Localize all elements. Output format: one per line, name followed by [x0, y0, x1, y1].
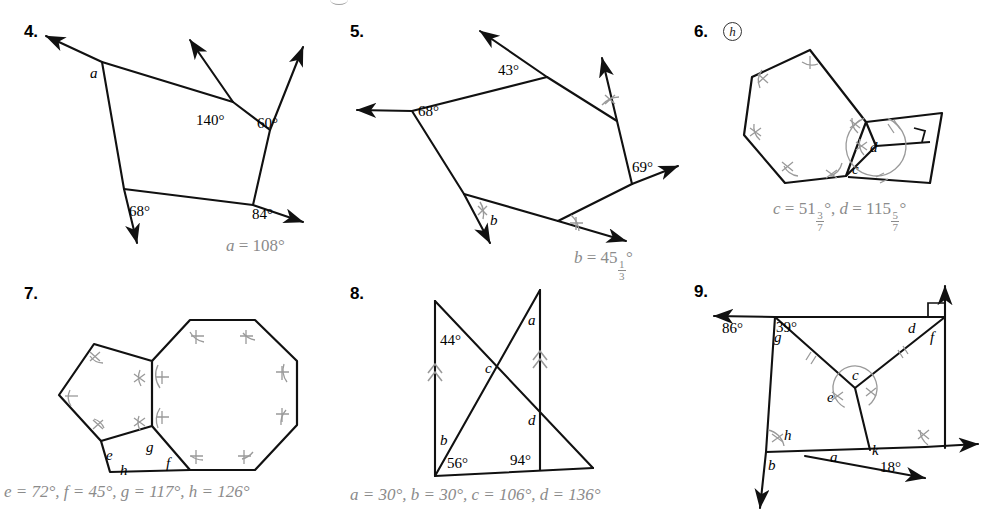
problem-4-answer-value: 108°: [253, 236, 285, 255]
problem-5-label-43: 43°: [498, 62, 519, 78]
problem-7: 7.: [0, 280, 340, 521]
problem-8-answer: a = 30°, b = 30°, c = 106°, d = 136°: [350, 485, 601, 505]
problem-8: 8. 44° a c d b 5: [340, 280, 680, 521]
problem-4-answer-eq: =: [239, 236, 249, 255]
problem-7-answer: e = 72°, f = 45°, g = 117°, h = 126°: [4, 482, 250, 502]
problem-6-answer-d-degree: °: [899, 199, 906, 218]
problem-8-label-94: 94°: [510, 452, 531, 468]
problem-5-label-b: b: [490, 212, 498, 228]
problem-6-answer-d-eq: =: [852, 199, 862, 218]
problem-9-label-k: k: [872, 442, 879, 458]
problem-9-label-h: h: [784, 427, 792, 443]
problem-7-label-g: g: [146, 439, 154, 455]
problem-9-label-86: 86°: [722, 320, 743, 336]
problem-6-answer-d-whole: 115: [866, 199, 891, 218]
problem-6-answer-c-var: c: [773, 199, 781, 218]
problem-4-label-140: 140°: [196, 112, 225, 128]
problem-9-label-f: f: [930, 329, 936, 345]
problem-4-figure: a 140° 60° 68° 84°: [0, 0, 330, 270]
problem-8-label-b: b: [440, 432, 448, 448]
problem-4: 4.: [0, 0, 330, 270]
problem-8-label-c: c: [485, 360, 492, 376]
problem-4-answer-var: a: [226, 236, 235, 255]
problem-5: 5.: [330, 0, 680, 280]
problem-6-label-d: d: [870, 139, 878, 155]
problem-5-answer-var: b: [574, 248, 583, 267]
problem-4-label-a: a: [90, 65, 98, 81]
problem-9-figure: 86° 39° g d f c e h b a k 18°: [680, 280, 986, 521]
fraction-denominator: 7: [891, 222, 899, 233]
problem-5-answer-degree: °: [626, 248, 633, 267]
fraction-numerator: 5: [891, 210, 899, 222]
problem-4-label-60: 60°: [257, 115, 278, 131]
problem-5-answer-eq: =: [587, 248, 597, 267]
problem-4-label-68: 68°: [129, 203, 150, 219]
problem-5-label-68: 68°: [418, 103, 439, 119]
problem-4-label-84: 84°: [252, 206, 273, 222]
problem-9-label-a: a: [830, 449, 838, 465]
problem-8-label-a: a: [528, 312, 536, 328]
problem-6-answer-separator: ,: [831, 199, 835, 218]
fraction-numerator: 3: [816, 210, 824, 222]
problem-6-answer-d-fraction: 57: [891, 210, 899, 233]
problem-7-label-e: e: [106, 447, 113, 463]
problem-6-label-c: c: [852, 161, 859, 177]
problem-9-label-b: b: [768, 457, 776, 473]
problem-5-figure: 43° 68° 69° b: [330, 0, 680, 280]
problem-9: 9.: [680, 280, 986, 521]
worksheet-page: 4.: [0, 0, 986, 521]
problem-9-label-c: c: [852, 367, 859, 383]
problem-6-answer-c-degree: °: [824, 199, 831, 218]
problem-9-label-e: e: [827, 389, 834, 405]
problem-8-label-d: d: [528, 412, 536, 428]
problem-9-label-18: 18°: [880, 459, 901, 475]
problem-6-answer-c-eq: =: [785, 199, 795, 218]
fraction-denominator: 7: [816, 222, 824, 233]
problem-4-answer: a = 108°: [226, 236, 285, 256]
problem-5-label-69: 69°: [632, 159, 653, 175]
problem-8-label-44: 44°: [440, 332, 461, 348]
problem-6-answer-d-var: d: [839, 199, 848, 218]
problem-7-label-f: f: [166, 455, 172, 471]
problem-5-answer: b = 4513°: [574, 248, 633, 282]
problem-6-answer-c-fraction: 37: [816, 210, 824, 233]
problem-7-label-h: h: [120, 462, 128, 478]
problem-6-answer-c-whole: 51: [799, 199, 816, 218]
problem-5-answer-fraction: 13: [618, 259, 626, 282]
problem-6: 6. h: [680, 0, 986, 270]
fraction-numerator: 1: [618, 259, 626, 271]
problem-6-answer: c = 5137°, d = 11557°: [773, 199, 906, 233]
problem-9-label-d: d: [908, 320, 916, 336]
problem-8-label-56: 56°: [447, 455, 468, 471]
problem-9-label-g: g: [774, 329, 782, 345]
problem-5-answer-whole: 45: [601, 248, 618, 267]
